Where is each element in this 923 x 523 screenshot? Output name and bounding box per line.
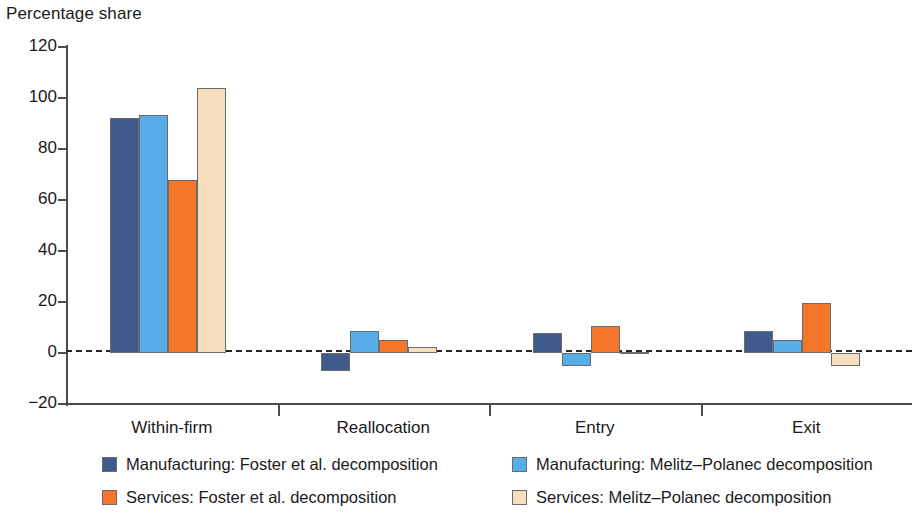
x-axis-category-label: Entry	[489, 418, 701, 438]
bar	[744, 331, 773, 353]
y-axis-tick	[58, 352, 67, 354]
y-axis-tick-label: 120	[29, 36, 57, 56]
legend-swatch-icon	[512, 457, 527, 472]
y-axis-tick-label: 20	[38, 291, 57, 311]
bar	[562, 353, 591, 366]
legend-item[interactable]: Manufacturing: Melitz–Polanec decomposit…	[512, 455, 873, 474]
y-axis-tick	[58, 250, 67, 252]
bar	[110, 118, 139, 353]
bar-chart-figure: Percentage share −20020406080100120 With…	[0, 0, 923, 523]
y-axis-title: Percentage share	[6, 4, 142, 24]
bar	[197, 88, 226, 353]
bar	[831, 353, 860, 366]
bar	[168, 180, 197, 353]
legend-item-label: Manufacturing: Foster et al. decompositi…	[126, 455, 438, 474]
y-axis-tick-label: 0	[48, 342, 57, 362]
legend-swatch-icon	[512, 490, 527, 505]
legend-item-label: Services: Melitz–Polanec decomposition	[536, 488, 831, 507]
bar	[591, 326, 620, 353]
legend-item-label: Manufacturing: Melitz–Polanec decomposit…	[536, 455, 873, 474]
legend-item-label: Services: Foster et al. decomposition	[126, 488, 397, 507]
bar	[533, 333, 562, 353]
y-axis-tick-label: −20	[28, 393, 57, 413]
bar	[379, 340, 408, 353]
y-axis-tick-label: 80	[38, 138, 57, 158]
bar	[139, 115, 168, 353]
x-axis-tick	[278, 404, 280, 416]
legend-item[interactable]: Services: Foster et al. decomposition	[102, 488, 397, 507]
x-axis-category-label: Exit	[701, 418, 913, 438]
x-axis-tick	[701, 404, 703, 416]
bar	[620, 352, 649, 354]
bar	[408, 347, 437, 353]
y-axis-tick	[58, 199, 67, 201]
legend-item[interactable]: Manufacturing: Foster et al. decompositi…	[102, 455, 438, 474]
x-axis-category-label: Within-firm	[66, 418, 278, 438]
x-axis-category-label: Reallocation	[278, 418, 490, 438]
y-axis-tick-label: 60	[38, 189, 57, 209]
x-axis-tick	[489, 404, 491, 416]
legend-swatch-icon	[102, 490, 117, 505]
y-axis-tick	[58, 403, 67, 405]
bar	[802, 303, 831, 353]
y-axis-tick	[58, 46, 67, 48]
y-axis-tick-label: 40	[38, 240, 57, 260]
bar	[350, 331, 379, 353]
y-axis-tick	[58, 97, 67, 99]
legend: Manufacturing: Foster et al. decompositi…	[56, 455, 916, 521]
y-axis-tick-label: 100	[29, 87, 57, 107]
legend-swatch-icon	[102, 457, 117, 472]
y-axis-tick	[58, 148, 67, 150]
legend-item[interactable]: Services: Melitz–Polanec decomposition	[512, 488, 831, 507]
y-axis-tick	[58, 301, 67, 303]
bar	[773, 340, 802, 353]
bar	[321, 353, 350, 371]
